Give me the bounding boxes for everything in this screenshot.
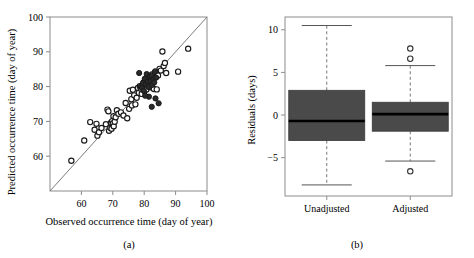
scatter-point-filled xyxy=(141,88,146,93)
scatter-point-filled xyxy=(143,93,148,98)
panel-a-x-tick-label: 80 xyxy=(139,198,149,209)
boxplot-outlier xyxy=(408,56,413,61)
scatter-point-filled xyxy=(153,69,158,74)
panel-a-y-axis-label-text: Predicted occurrence time (day of year) xyxy=(6,28,18,195)
scatter-point-open xyxy=(106,109,111,114)
scatter-point-open xyxy=(69,158,74,163)
boxplot-category-label: Adjusted xyxy=(392,203,428,214)
boxplot-box xyxy=(289,90,365,140)
panel-b-y-tick-label: 5 xyxy=(273,67,278,78)
panel-a-x-axis-label-text: Observed occurrence time (day of year) xyxy=(45,216,213,228)
boxplot-category-label: Unadjusted xyxy=(304,203,350,214)
scatter-point-open xyxy=(88,120,93,125)
scatter-point-open xyxy=(160,49,165,54)
scatter-point-filled xyxy=(149,104,154,109)
scatter-point-open xyxy=(94,121,99,126)
panel-a-plot-area: 6070809010060708090100 xyxy=(28,12,215,209)
panel-a-y-tick-label: 90 xyxy=(33,46,43,57)
scatter-point-open xyxy=(82,138,87,143)
panel-a-scatter: Predicted occurrence time (day of year) … xyxy=(0,0,237,258)
panel-b-svg: Residuals (days) 1050−5UnadjustedAdjuste… xyxy=(237,0,474,258)
panel-b-y-tick-label: −5 xyxy=(267,152,278,163)
panel-a-y-tick-label: 60 xyxy=(33,151,43,162)
scatter-point-filled xyxy=(154,75,159,80)
scatter-point-open xyxy=(154,87,159,92)
panel-a-x-tick-label: 90 xyxy=(171,198,181,209)
panel-a-svg: Predicted occurrence time (day of year) … xyxy=(0,0,237,258)
panel-a-y-tick-label: 70 xyxy=(33,116,43,127)
panel-a-x-tick-label: 100 xyxy=(200,198,215,209)
panel-b-caption: (b) xyxy=(351,239,364,251)
scatter-point-filled xyxy=(137,70,142,75)
panel-b-y-tick-label: 0 xyxy=(273,110,278,121)
panel-a-y-tick-label: 80 xyxy=(33,81,43,92)
panel-b-boxplot: Residuals (days) 1050−5UnadjustedAdjuste… xyxy=(237,0,474,258)
scatter-point-open xyxy=(176,69,181,74)
panel-a-x-tick-label: 70 xyxy=(108,198,118,209)
scatter-point-open xyxy=(125,116,130,121)
scatter-point-open xyxy=(162,60,167,65)
panel-a-y-axis-label: Predicted occurrence time (day of year) xyxy=(6,28,18,195)
figure-container: Predicted occurrence time (day of year) … xyxy=(0,0,474,258)
boxplot-outlier xyxy=(408,46,413,51)
scatter-point-open xyxy=(123,100,128,105)
scatter-point-open xyxy=(133,102,138,107)
panel-a-y-tick-label: 100 xyxy=(28,12,43,23)
panel-b-y-axis-label: Residuals (days) xyxy=(246,75,258,145)
scatter-point-open xyxy=(99,125,104,130)
panel-b-y-axis-label-text: Residuals (days) xyxy=(246,75,258,145)
scatter-point-open xyxy=(164,70,169,75)
scatter-point-open xyxy=(186,46,191,51)
boxplot-outlier xyxy=(408,169,413,174)
scatter-point-filled xyxy=(156,101,161,106)
scatter-point-open xyxy=(130,87,135,92)
scatter-point-filled xyxy=(153,96,158,101)
panel-b-plot-area: 1050−5UnadjustedAdjusted xyxy=(267,17,452,214)
boxplot-box xyxy=(372,102,448,131)
panel-a-caption: (a) xyxy=(123,239,135,251)
panel-a-x-tick-label: 60 xyxy=(76,198,86,209)
panel-b-y-tick-label: 10 xyxy=(268,24,278,35)
